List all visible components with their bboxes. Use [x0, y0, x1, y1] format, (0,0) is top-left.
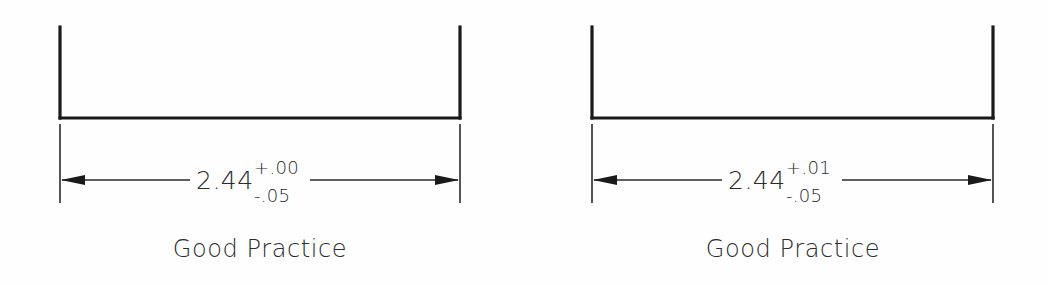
upper-tolerance: +.01: [786, 157, 831, 178]
dimension-text-group: 2.44 +.01 -.05: [728, 157, 831, 206]
nominal-value: 2.44: [196, 166, 254, 195]
lower-tolerance: -.05: [786, 185, 822, 206]
panel-caption: Good Practice: [706, 235, 881, 263]
upper-tolerance: +.00: [254, 157, 299, 178]
channel-profile: [60, 27, 460, 118]
arrowhead-left: [61, 175, 85, 185]
left-panel: 2.44 +.00 -.05 Good Practice: [60, 27, 460, 263]
panel-caption: Good Practice: [173, 235, 348, 263]
arrowhead-right: [435, 175, 459, 185]
arrowhead-right: [968, 175, 992, 185]
channel-profile: [592, 27, 993, 118]
drawing-sheet: 2.44 +.00 -.05 Good Practice: [0, 0, 1048, 285]
right-panel: 2.44 +.01 -.05 Good Practice: [592, 27, 993, 263]
arrowhead-left: [593, 175, 617, 185]
lower-tolerance: -.05: [254, 185, 290, 206]
nominal-value: 2.44: [728, 166, 786, 195]
drawing-canvas: 2.44 +.00 -.05 Good Practice: [0, 0, 1048, 285]
dimension-text-group: 2.44 +.00 -.05: [196, 157, 299, 206]
